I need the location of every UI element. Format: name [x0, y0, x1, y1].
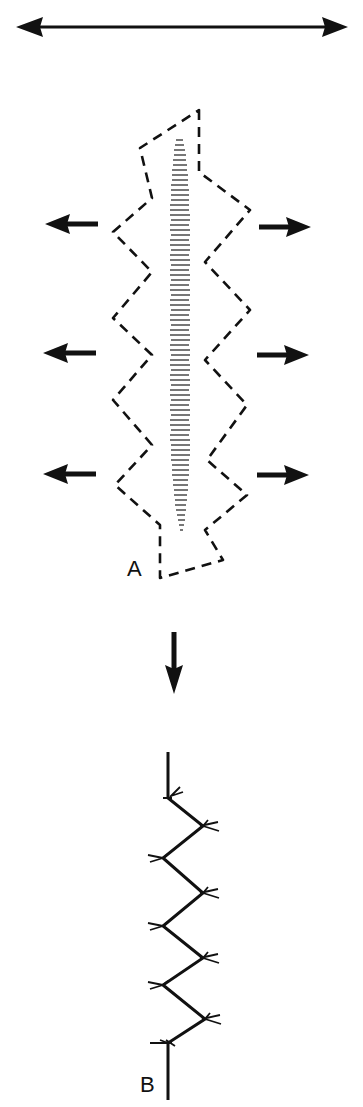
arrow-left-icon — [43, 464, 96, 484]
stitch-marks — [148, 787, 221, 1046]
tension-arrow-icon — [16, 17, 348, 37]
left-arrows — [43, 214, 98, 484]
arrow-down-icon — [165, 632, 183, 694]
right-arrows — [257, 217, 311, 485]
arrow-left-icon — [43, 343, 96, 363]
arrow-left-icon — [45, 214, 98, 234]
arrow-right-icon — [257, 345, 309, 365]
arrow-right-icon — [257, 465, 309, 485]
hatched-lesion — [170, 140, 190, 530]
zigzag-suture-line — [148, 752, 221, 1100]
label-b: B — [140, 1074, 155, 1096]
arrow-right-icon — [259, 217, 311, 237]
diagram-canvas — [0, 0, 363, 1107]
label-a: A — [127, 558, 142, 580]
